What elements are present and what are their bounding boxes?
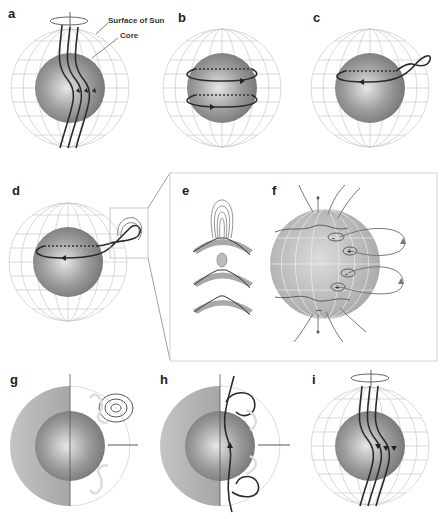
- panel-c: c: [311, 10, 430, 147]
- panel-label-g: g: [10, 372, 18, 387]
- panel-d: d: [9, 173, 170, 360]
- rotation-axis-icon: [351, 374, 389, 382]
- panel-label-f: f: [272, 183, 277, 198]
- panel-f: f - + - + --: [270, 183, 406, 342]
- panel-label-a: a: [8, 6, 16, 21]
- zoom-box: [110, 208, 148, 258]
- panel-h: h: [160, 372, 290, 512]
- polarity-minus-1: -: [332, 233, 335, 242]
- polarity-minus-2: -: [345, 269, 348, 278]
- panel-a: a Surface of Sun Core: [8, 6, 165, 148]
- panel-label-c: c: [313, 10, 320, 25]
- panel-b: b: [163, 10, 281, 147]
- panel-i: i: [311, 370, 429, 506]
- annotation-core: Core: [120, 31, 139, 40]
- polarity-south: --: [316, 305, 322, 314]
- annotation-surface-of-sun: Surface of Sun: [108, 16, 165, 25]
- solar-dynamo-figure: a Surface of Sun Core b c: [0, 0, 448, 519]
- polarity-plus-2: +: [335, 283, 340, 292]
- panel-label-i: i: [312, 372, 316, 387]
- panel-label-h: h: [160, 372, 168, 387]
- rotation-axis-icon: [50, 17, 88, 25]
- panel-e: e: [182, 183, 253, 315]
- panel-label-e: e: [182, 183, 189, 198]
- panel-label-d: d: [12, 183, 20, 198]
- polarity-plus-1: +: [347, 247, 352, 256]
- panel-label-b: b: [178, 10, 186, 25]
- panel-g: g: [10, 372, 138, 506]
